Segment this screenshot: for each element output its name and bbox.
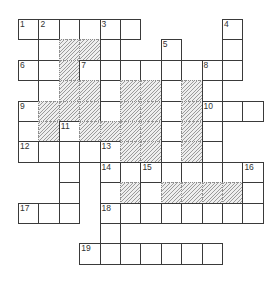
grid-cell[interactable] bbox=[161, 101, 182, 122]
grid-cell[interactable] bbox=[120, 243, 141, 264]
numbered-cell-11[interactable]: 11 bbox=[59, 121, 80, 142]
numbered-cell-8[interactable]: 8 bbox=[202, 60, 223, 81]
grid-cell[interactable] bbox=[161, 80, 182, 101]
grid-cell[interactable] bbox=[38, 60, 59, 81]
shaded-cell bbox=[181, 121, 202, 142]
grid-cell[interactable] bbox=[120, 60, 141, 81]
shaded-cell bbox=[120, 80, 141, 101]
numbered-cell-10[interactable]: 10 bbox=[202, 101, 223, 122]
shaded-cell bbox=[161, 182, 182, 203]
clue-number: 10 bbox=[204, 102, 213, 111]
shaded-cell bbox=[59, 60, 80, 81]
clue-number: 15 bbox=[142, 163, 151, 172]
shaded-cell bbox=[79, 39, 100, 60]
grid-cell[interactable] bbox=[242, 182, 263, 203]
clue-number: 12 bbox=[20, 142, 29, 151]
clue-number: 8 bbox=[204, 61, 209, 70]
numbered-cell-1[interactable]: 1 bbox=[18, 19, 39, 40]
numbered-cell-4[interactable]: 4 bbox=[222, 19, 243, 40]
grid-cell[interactable] bbox=[59, 182, 80, 203]
grid-cell[interactable] bbox=[38, 39, 59, 60]
grid-cell[interactable] bbox=[100, 101, 121, 122]
grid-cell[interactable] bbox=[79, 19, 100, 40]
shaded-cell bbox=[202, 182, 223, 203]
grid-cell[interactable] bbox=[140, 60, 161, 81]
grid-cell[interactable] bbox=[242, 203, 263, 224]
grid-cell[interactable] bbox=[161, 121, 182, 142]
grid-cell[interactable] bbox=[202, 80, 223, 101]
grid-cell[interactable] bbox=[120, 162, 141, 183]
numbered-cell-14[interactable]: 14 bbox=[100, 162, 121, 183]
grid-cell[interactable] bbox=[222, 162, 243, 183]
clue-number: 18 bbox=[102, 204, 111, 213]
grid-cell[interactable] bbox=[100, 80, 121, 101]
grid-cell[interactable] bbox=[202, 203, 223, 224]
grid-cell[interactable] bbox=[140, 182, 161, 203]
numbered-cell-16[interactable]: 16 bbox=[242, 162, 263, 183]
clue-number: 3 bbox=[102, 20, 107, 29]
numbered-cell-18[interactable]: 18 bbox=[100, 203, 121, 224]
grid-cell[interactable] bbox=[38, 80, 59, 101]
grid-cell[interactable] bbox=[140, 243, 161, 264]
shaded-cell bbox=[140, 141, 161, 162]
grid-cell[interactable] bbox=[59, 203, 80, 224]
grid-cell[interactable] bbox=[161, 60, 182, 81]
grid-cell[interactable] bbox=[59, 162, 80, 183]
numbered-cell-2[interactable]: 2 bbox=[38, 19, 59, 40]
grid-cell[interactable] bbox=[100, 243, 121, 264]
numbered-cell-3[interactable]: 3 bbox=[100, 19, 121, 40]
clue-number: 2 bbox=[40, 20, 45, 29]
grid-cell[interactable] bbox=[181, 243, 202, 264]
clue-number: 6 bbox=[20, 61, 25, 70]
numbered-cell-15[interactable]: 15 bbox=[140, 162, 161, 183]
grid-cell[interactable] bbox=[202, 141, 223, 162]
grid-cell[interactable] bbox=[242, 101, 263, 122]
shaded-cell bbox=[140, 121, 161, 142]
grid-cell[interactable] bbox=[161, 141, 182, 162]
grid-cell[interactable] bbox=[38, 203, 59, 224]
numbered-cell-12[interactable]: 12 bbox=[18, 141, 39, 162]
grid-cell[interactable] bbox=[100, 60, 121, 81]
grid-cell[interactable] bbox=[18, 121, 39, 142]
grid-cell[interactable] bbox=[181, 203, 202, 224]
numbered-cell-6[interactable]: 6 bbox=[18, 60, 39, 81]
grid-cell[interactable] bbox=[181, 162, 202, 183]
grid-cell[interactable] bbox=[59, 19, 80, 40]
numbered-cell-13[interactable]: 13 bbox=[100, 141, 121, 162]
grid-cell[interactable] bbox=[79, 141, 100, 162]
grid-cell[interactable] bbox=[120, 19, 141, 40]
grid-cell[interactable] bbox=[38, 141, 59, 162]
numbered-cell-17[interactable]: 17 bbox=[18, 203, 39, 224]
shaded-cell bbox=[79, 101, 100, 122]
numbered-cell-7[interactable]: 7 bbox=[79, 60, 100, 81]
grid-cell[interactable] bbox=[140, 203, 161, 224]
clue-number: 5 bbox=[163, 40, 168, 49]
numbered-cell-9[interactable]: 9 bbox=[18, 101, 39, 122]
clue-number: 4 bbox=[224, 20, 229, 29]
grid-cell[interactable] bbox=[222, 39, 243, 60]
grid-cell[interactable] bbox=[120, 203, 141, 224]
grid-cell[interactable] bbox=[222, 101, 243, 122]
grid-cell[interactable] bbox=[202, 162, 223, 183]
grid-cell[interactable] bbox=[100, 182, 121, 203]
clue-number: 14 bbox=[102, 163, 111, 172]
grid-cell[interactable] bbox=[100, 223, 121, 244]
clue-number: 16 bbox=[244, 163, 253, 172]
grid-cell[interactable] bbox=[181, 60, 202, 81]
numbered-cell-19[interactable]: 19 bbox=[79, 243, 100, 264]
numbered-cell-5[interactable]: 5 bbox=[161, 39, 182, 60]
shaded-cell bbox=[120, 101, 141, 122]
grid-cell[interactable] bbox=[222, 203, 243, 224]
grid-cell[interactable] bbox=[222, 60, 243, 81]
grid-cell[interactable] bbox=[202, 243, 223, 264]
grid-cell[interactable] bbox=[202, 121, 223, 142]
grid-cell[interactable] bbox=[100, 39, 121, 60]
grid-cell[interactable] bbox=[161, 162, 182, 183]
grid-cell[interactable] bbox=[59, 141, 80, 162]
shaded-cell bbox=[59, 101, 80, 122]
grid-cell[interactable] bbox=[161, 243, 182, 264]
shaded-cell bbox=[181, 141, 202, 162]
shaded-cell bbox=[140, 101, 161, 122]
clue-number: 13 bbox=[102, 142, 111, 151]
grid-cell[interactable] bbox=[161, 203, 182, 224]
